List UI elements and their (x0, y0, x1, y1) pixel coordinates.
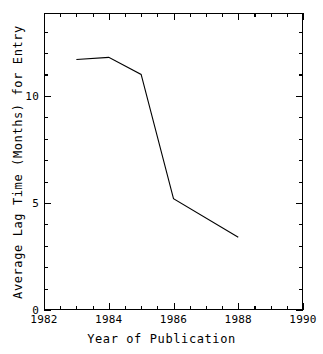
y-tick-major-right (296, 203, 303, 204)
y-tick-minor-right (299, 160, 303, 161)
x-tick-minor (222, 306, 223, 310)
y-tick-minor (44, 117, 48, 118)
y-tick-minor-right (299, 224, 303, 225)
y-tick-minor (44, 53, 48, 54)
y-axis-title: Average Lag Time (Months) for Entry (11, 2, 25, 322)
x-tick-minor-top (287, 13, 288, 17)
y-tick-major (44, 310, 51, 311)
x-tick-minor-top (157, 13, 158, 17)
x-tick-major-top (44, 13, 45, 20)
x-axis-title: Year of Publication (0, 332, 323, 346)
x-tick-minor (206, 306, 207, 310)
x-tick-minor-top (125, 13, 126, 17)
x-tick-minor-top (206, 13, 207, 17)
y-tick-minor-right (299, 289, 303, 290)
x-tick-major (109, 303, 110, 310)
x-tick-major-top (109, 13, 110, 20)
y-tick-minor-right (299, 32, 303, 33)
y-tick-minor (44, 74, 48, 75)
x-tick-label: 1990 (289, 313, 316, 326)
x-tick-label: 1986 (160, 313, 187, 326)
y-tick-minor (44, 224, 48, 225)
x-tick-major-top (238, 13, 239, 20)
x-tick-major-top (303, 13, 304, 20)
y-tick-minor-right (299, 182, 303, 183)
x-tick-minor-top (141, 13, 142, 17)
x-tick-minor (141, 306, 142, 310)
y-tick-minor (44, 182, 48, 183)
x-tick-major (174, 303, 175, 310)
x-tick-major-top (174, 13, 175, 20)
x-tick-minor (190, 306, 191, 310)
y-tick-minor-right (299, 74, 303, 75)
x-tick-minor-top (93, 13, 94, 17)
x-tick-major (44, 303, 45, 310)
x-tick-minor-top (254, 13, 255, 17)
y-tick-major-right (296, 310, 303, 311)
y-tick-minor (44, 160, 48, 161)
x-tick-minor-top (60, 13, 61, 17)
x-tick-major (303, 303, 304, 310)
y-tick-minor-right (299, 139, 303, 140)
y-tick-major-right (296, 96, 303, 97)
x-tick-minor (271, 306, 272, 310)
x-tick-minor (125, 306, 126, 310)
y-tick-major (44, 203, 51, 204)
x-tick-major (238, 303, 239, 310)
x-tick-minor-top (76, 13, 77, 17)
x-tick-minor (60, 306, 61, 310)
x-tick-minor (254, 306, 255, 310)
x-tick-minor (93, 306, 94, 310)
x-tick-minor (287, 306, 288, 310)
chart-figure: 198219841986198819900510 Year of Publica… (0, 0, 323, 354)
x-tick-minor (157, 306, 158, 310)
y-tick-minor (44, 139, 48, 140)
y-tick-minor (44, 246, 48, 247)
x-tick-label: 1988 (225, 313, 252, 326)
y-tick-minor (44, 267, 48, 268)
x-tick-minor-top (222, 13, 223, 17)
plot-area-frame (44, 13, 303, 310)
x-tick-minor (76, 306, 77, 310)
x-tick-minor-top (271, 13, 272, 17)
x-tick-minor-top (190, 13, 191, 17)
y-tick-minor-right (299, 246, 303, 247)
x-tick-label: 1984 (95, 313, 122, 326)
y-tick-major (44, 96, 51, 97)
y-tick-minor-right (299, 117, 303, 118)
y-tick-minor (44, 289, 48, 290)
y-tick-minor (44, 32, 48, 33)
y-tick-minor-right (299, 53, 303, 54)
y-tick-minor-right (299, 267, 303, 268)
